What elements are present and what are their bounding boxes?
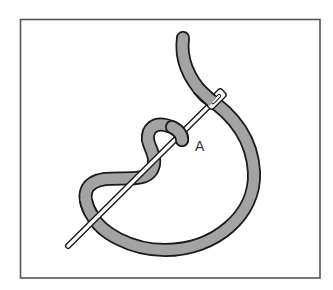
label-a: A <box>195 138 205 154</box>
stitch-diagram: A <box>0 0 333 290</box>
diagram-frame <box>21 20 321 279</box>
